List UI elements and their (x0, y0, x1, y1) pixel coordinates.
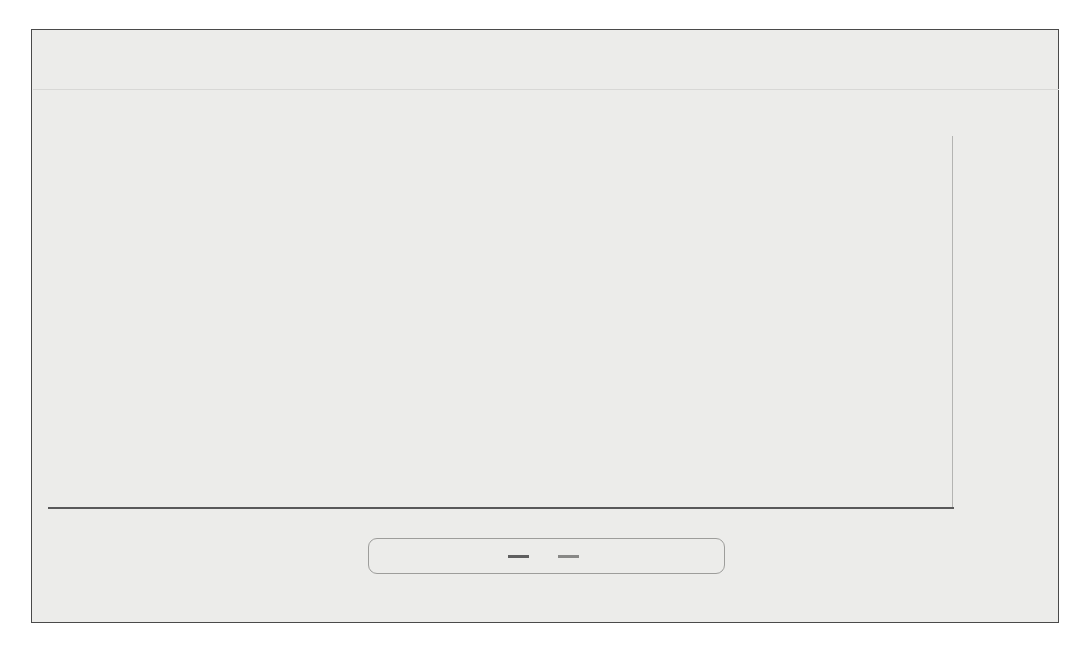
x-axis-line (48, 507, 954, 509)
screenshot-root (0, 0, 1091, 651)
legend-swatch-icon (508, 555, 529, 558)
legend-item-ages-65-and-over[interactable] (508, 555, 536, 558)
legend-item-ages-0-to-14[interactable] (558, 555, 586, 558)
chart-panel (31, 29, 1059, 623)
y-axis-line (952, 136, 953, 508)
chart-legend[interactable] (368, 538, 725, 574)
plot-area (48, 136, 952, 506)
header-divider (33, 89, 1059, 90)
area-chart-svg (48, 136, 952, 506)
legend-swatch-icon (558, 555, 579, 558)
